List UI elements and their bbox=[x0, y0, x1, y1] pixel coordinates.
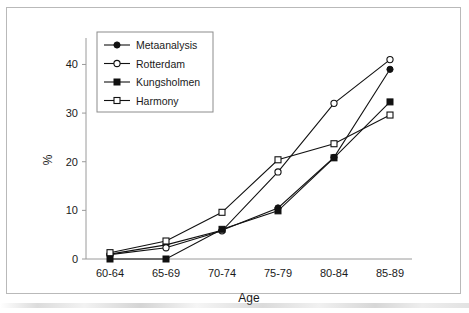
series-harmony bbox=[107, 112, 393, 256]
x-tick-label: 65-69 bbox=[152, 267, 180, 279]
marker-open-square bbox=[219, 209, 225, 215]
x-tick-label: 85-89 bbox=[376, 267, 404, 279]
marker-open-circle bbox=[275, 169, 281, 175]
marker-filled-square bbox=[114, 79, 120, 85]
y-tick-label: 0 bbox=[72, 253, 78, 265]
legend-label: Kungsholmen bbox=[136, 76, 200, 88]
marker-open-circle bbox=[114, 60, 120, 66]
y-tick-label: 30 bbox=[66, 107, 78, 119]
x-tick-label: 70-74 bbox=[208, 267, 236, 279]
marker-open-square bbox=[275, 157, 281, 163]
marker-filled-square bbox=[107, 256, 113, 262]
marker-filled-circle bbox=[387, 66, 393, 72]
legend-label: Metaanalysis bbox=[136, 39, 197, 51]
marker-filled-square bbox=[331, 155, 337, 161]
figure-container: MetaanalysisRotterdamKungsholmenHarmony … bbox=[0, 0, 469, 313]
marker-open-square bbox=[114, 98, 120, 104]
marker-filled-square bbox=[219, 226, 225, 232]
y-tick-label: 10 bbox=[66, 204, 78, 216]
y-tick-label: 40 bbox=[66, 58, 78, 70]
scan-artifact bbox=[0, 303, 469, 308]
marker-filled-circle bbox=[114, 42, 120, 48]
marker-open-square bbox=[107, 250, 113, 256]
series-kungsholmen bbox=[107, 99, 393, 262]
marker-filled-square bbox=[387, 99, 393, 105]
chart-legend: MetaanalysisRotterdamKungsholmenHarmony bbox=[97, 32, 213, 112]
y-tick-label: 20 bbox=[66, 156, 78, 168]
series-polyline bbox=[110, 102, 390, 259]
x-tick-label: 80-84 bbox=[320, 267, 348, 279]
y-axis-title: % bbox=[41, 154, 55, 165]
marker-open-circle bbox=[331, 100, 337, 106]
marker-filled-square bbox=[275, 208, 281, 214]
x-tick-label: 60-64 bbox=[96, 267, 124, 279]
marker-open-circle bbox=[163, 245, 169, 251]
chart-labels: 01020304060-6465-6970-7475-7980-8485-89A… bbox=[41, 58, 404, 305]
marker-open-circle bbox=[387, 56, 393, 62]
marker-open-square bbox=[331, 141, 337, 147]
x-tick-label: 75-79 bbox=[264, 267, 292, 279]
legend-label: Harmony bbox=[136, 95, 179, 107]
marker-open-square bbox=[387, 112, 393, 118]
legend-label: Rotterdam bbox=[136, 58, 185, 70]
marker-filled-square bbox=[163, 256, 169, 262]
line-chart: MetaanalysisRotterdamKungsholmenHarmony … bbox=[0, 0, 469, 313]
marker-open-square bbox=[163, 238, 169, 244]
